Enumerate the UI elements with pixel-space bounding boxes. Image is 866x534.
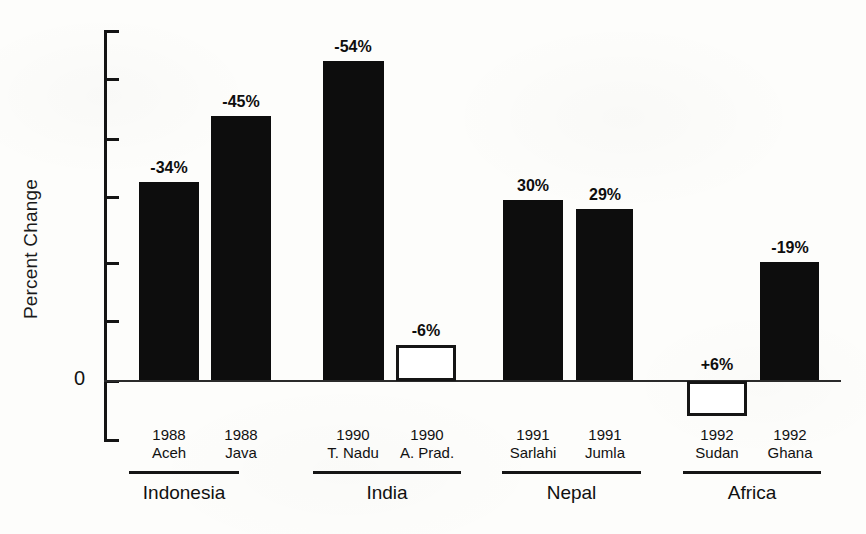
y-axis-tick-5 bbox=[104, 320, 119, 323]
bar-1988-java bbox=[211, 116, 271, 380]
category-year: 1988 bbox=[201, 426, 281, 444]
group-rule-indonesia bbox=[129, 471, 239, 474]
bar-1988-aceh bbox=[139, 182, 199, 380]
y-axis-label-text: Percent Change bbox=[20, 179, 42, 319]
bar-1990-t-nadu bbox=[323, 61, 384, 380]
y-axis-tick-2 bbox=[104, 138, 119, 141]
group-rule-india bbox=[313, 471, 461, 474]
y-axis-tick-1 bbox=[104, 78, 119, 81]
category-label-1988-aceh: 1988 Aceh bbox=[129, 426, 209, 462]
bar-1990-a-prad bbox=[396, 345, 456, 381]
bar-label-1991-sarlahi: 30% bbox=[493, 178, 573, 194]
bar-1992-ghana bbox=[760, 262, 819, 380]
category-place: Ghana bbox=[750, 444, 830, 462]
category-place: Java bbox=[201, 444, 281, 462]
category-year: 1990 bbox=[385, 426, 469, 444]
bar-label-1992-sudan: +6% bbox=[677, 357, 757, 373]
category-place: Sarlahi bbox=[491, 444, 575, 462]
category-year: 1991 bbox=[491, 426, 575, 444]
category-label-1991-jumla: 1991 Jumla bbox=[565, 426, 645, 462]
bar-1992-sudan bbox=[687, 381, 747, 416]
category-place: Aceh bbox=[129, 444, 209, 462]
zero-tick-label: 0 bbox=[74, 368, 85, 388]
category-year: 1992 bbox=[677, 426, 757, 444]
category-label-1988-java: 1988 Java bbox=[201, 426, 281, 462]
bar-label-1988-java: -45% bbox=[201, 94, 281, 110]
group-name-indonesia: Indonesia bbox=[124, 482, 244, 504]
group-name-nepal: Nepal bbox=[502, 482, 641, 504]
category-place: T. Nadu bbox=[311, 444, 395, 462]
category-place: A. Prad. bbox=[385, 444, 469, 462]
category-label-1990-a-prad: 1990 A. Prad. bbox=[385, 426, 469, 462]
bar-label-1988-aceh: -34% bbox=[129, 160, 209, 176]
bar-label-1991-jumla: 29% bbox=[565, 187, 645, 203]
y-axis-top-cap bbox=[104, 30, 119, 33]
y-axis-label: Percent Change bbox=[0, 0, 62, 534]
group-rule-africa bbox=[683, 471, 821, 474]
bar-label-1990-a-prad: -6% bbox=[386, 323, 466, 339]
category-label-1992-ghana: 1992 Ghana bbox=[750, 426, 830, 462]
category-label-1991-sarlahi: 1991 Sarlahi bbox=[491, 426, 575, 462]
category-year: 1991 bbox=[565, 426, 645, 444]
category-year: 1988 bbox=[129, 426, 209, 444]
group-name-india: India bbox=[317, 482, 457, 504]
bar-1991-jumla bbox=[576, 209, 633, 380]
category-year: 1990 bbox=[311, 426, 395, 444]
bar-label-1992-ghana: -19% bbox=[750, 240, 830, 256]
category-place: Jumla bbox=[565, 444, 645, 462]
y-axis-tick-4 bbox=[104, 262, 119, 265]
group-name-africa: Africa bbox=[683, 482, 821, 504]
bar-1991-sarlahi bbox=[503, 200, 563, 380]
bar-label-1990-t-nadu: -54% bbox=[313, 39, 393, 55]
category-year: 1992 bbox=[750, 426, 830, 444]
category-place: Sudan bbox=[677, 444, 757, 462]
bar-chart: Percent Change 0 -34% -45% -54% -6% 30% … bbox=[0, 0, 866, 534]
group-rule-nepal bbox=[502, 471, 641, 474]
y-axis-tick-3 bbox=[104, 196, 119, 199]
category-label-1990-t-nadu: 1990 T. Nadu bbox=[311, 426, 395, 462]
category-label-1992-sudan: 1992 Sudan bbox=[677, 426, 757, 462]
y-axis-bottom-cap bbox=[104, 439, 119, 442]
